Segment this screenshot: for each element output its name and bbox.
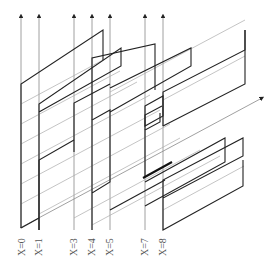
diagonal-axis-arrow (20, 98, 262, 228)
panel-x8 (163, 138, 243, 230)
panels (21, 30, 245, 230)
label-x0: X=0 (16, 238, 27, 256)
panel-x0-bottom (21, 218, 39, 228)
label-x3: X=3 (68, 238, 79, 256)
label-x4: X=4 (86, 238, 97, 256)
panel-x1 (39, 48, 121, 230)
hatch-lines (21, 20, 245, 225)
panel-x4 (92, 110, 110, 230)
panel-x5-bottom (110, 180, 165, 210)
panel-stack-diagram (0, 0, 276, 273)
panel-x0 (21, 30, 103, 228)
label-x5: X=5 (104, 238, 115, 256)
label-x1: X=1 (33, 238, 44, 256)
label-x7: X=7 (139, 238, 150, 256)
label-x8: X=8 (157, 238, 168, 256)
